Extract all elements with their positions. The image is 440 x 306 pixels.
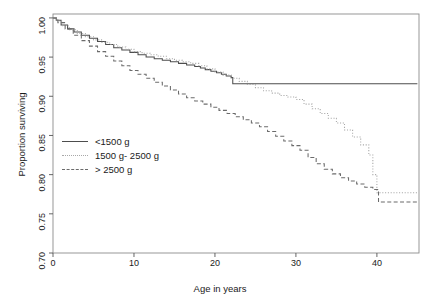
- legend-item-gt2500: > 2500 g: [62, 162, 159, 176]
- y-tick-label: 0.70: [37, 252, 47, 286]
- x-tick-label: 40: [362, 258, 392, 268]
- x-tick-label: 20: [200, 258, 230, 268]
- legend-label: 1500 g- 2500 g: [95, 150, 159, 161]
- series-line: [53, 18, 417, 84]
- x-tick-label: 30: [281, 258, 311, 268]
- y-tick-label: 1.00: [37, 17, 47, 51]
- legend-key-dotted-icon: [62, 150, 88, 160]
- chart-figure: Age in years Proportion surviving 010203…: [0, 0, 440, 306]
- legend-key-dashed-icon: [62, 164, 88, 174]
- legend-label: <1500 g: [95, 136, 130, 147]
- y-tick-label: 0.95: [37, 56, 47, 90]
- y-axis-title: Proportion surviving: [16, 70, 27, 200]
- chart-legend: <1500 g 1500 g- 2500 g > 2500 g: [62, 134, 159, 176]
- legend-key-solid-icon: [62, 136, 88, 146]
- legend-item-lt1500: <1500 g: [62, 134, 159, 148]
- x-axis-title: Age in years: [0, 283, 440, 294]
- legend-label: > 2500 g: [95, 164, 132, 175]
- x-tick-label: 10: [119, 258, 149, 268]
- legend-item-1500-2500: 1500 g- 2500 g: [62, 148, 159, 162]
- y-tick-label: 0.85: [37, 134, 47, 168]
- y-tick-label: 0.75: [37, 213, 47, 247]
- y-tick-label: 0.90: [37, 95, 47, 129]
- y-tick-label: 0.80: [37, 174, 47, 208]
